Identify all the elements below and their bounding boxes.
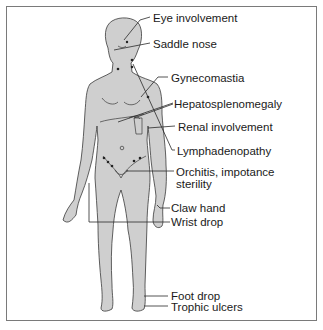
label-trophic-ulcers: Trophic ulcers — [171, 301, 243, 313]
label-claw-hand: Claw hand — [171, 202, 225, 214]
label-orchitis: Orchitis, impotance — [176, 166, 274, 178]
label-hepatosplenomegaly: Hepatosplenomegaly — [174, 98, 282, 110]
label-saddle-nose: Saddle nose — [153, 38, 217, 50]
head — [63, 18, 166, 311]
label-wrist-drop: Wrist drop — [171, 216, 223, 228]
label-sterility: sterility — [176, 178, 212, 190]
label-lymphadenopathy: Lymphadenopathy — [177, 145, 271, 157]
label-gynecomastia: Gynecomastia — [171, 72, 245, 84]
label-renal-involvement: Renal involvement — [178, 121, 273, 133]
label-eye-involvement: Eye involvement — [153, 12, 237, 24]
